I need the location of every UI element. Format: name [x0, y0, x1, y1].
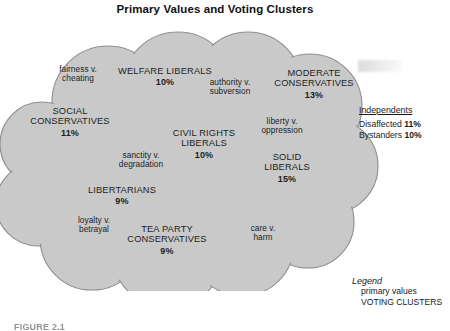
- cluster-percent-social-conservatives: 11%: [10, 128, 130, 138]
- independents-label-bystanders: Bystanders: [359, 130, 402, 140]
- independents-panel: Independents Disaffected 11% Bystanders …: [359, 105, 449, 142]
- cluster-percent-solid-liberals: 15%: [242, 174, 332, 184]
- legend-item-voting-clusters: VOTING CLUSTERS: [361, 297, 442, 308]
- independents-percent-bystanders: 10%: [404, 130, 421, 140]
- cloud-labels-layer: fairness v. cheating authority v. subver…: [0, 26, 380, 291]
- page-title: Primary Values and Voting Clusters: [0, 3, 430, 15]
- cluster-percent-tea-party-conservatives: 9%: [106, 246, 228, 256]
- legend: Legend primary values VOTING CLUSTERS: [352, 276, 442, 308]
- legend-items: primary values VOTING CLUSTERS: [352, 286, 442, 308]
- independents-percent-disaffected: 11%: [404, 119, 421, 129]
- cluster-label-welfare-liberals: WELFARE LIBERALS 10%: [97, 66, 233, 87]
- independents-row-disaffected: Disaffected 11%: [359, 119, 449, 130]
- figure-caption: FIGURE 2.1: [14, 322, 65, 331]
- independents-heading: Independents: [359, 105, 449, 115]
- cloud-diagram: fairness v. cheating authority v. subver…: [0, 26, 380, 291]
- independents-row-bystanders: Bystanders 10%: [359, 130, 449, 141]
- cluster-label-libertarians: LIBERTARIANS 9%: [60, 185, 184, 206]
- independents-label-disaffected: Disaffected: [359, 119, 402, 129]
- cluster-label-solid-liberals: SOLID LIBERALS 15%: [242, 152, 332, 184]
- cluster-label-moderate-conservatives: MODERATE CONSERVATIVES 13%: [256, 68, 372, 100]
- cluster-percent-moderate-conservatives: 13%: [256, 90, 372, 100]
- figure-root: Primary Values and Voting Clusters: [0, 0, 450, 331]
- legend-title: Legend: [352, 276, 442, 286]
- cluster-label-tea-party-conservatives: TEA PARTY CONSERVATIVES 9%: [106, 224, 228, 256]
- value-label-care: care v. harm: [228, 224, 298, 243]
- legend-item-primary-values: primary values: [361, 286, 442, 297]
- cluster-percent-libertarians: 9%: [60, 196, 184, 206]
- cluster-percent-welfare-liberals: 10%: [97, 77, 233, 87]
- cluster-label-social-conservatives: SOCIAL CONSERVATIVES 11%: [10, 106, 130, 138]
